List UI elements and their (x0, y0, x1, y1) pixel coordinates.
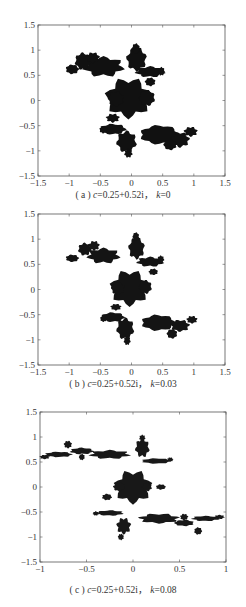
caption-c-k-value: =0.08 (155, 585, 177, 595)
caption-c: ( c ) c=0.25+0.52i， k=0.08 (0, 582, 246, 596)
y-tick-label: 1.5 (26, 407, 38, 417)
y-tick-label: 0.5 (26, 457, 38, 467)
plot-c: −1−0.500.51−1.5−1−0.500.511.5 (0, 0, 246, 607)
panel-c: −1−0.500.51−1.5−1−0.500.511.5 ( c ) c=0.… (0, 0, 246, 607)
caption-c-prefix: ( c ) (69, 585, 87, 595)
caption-c-c-value: =0.25+0.52i， (91, 585, 150, 595)
y-tick-label: −0.5 (21, 507, 38, 517)
y-tick-label: 0 (33, 482, 38, 492)
y-tick-label: 1 (33, 432, 38, 442)
x-tick-label: −0.5 (78, 564, 95, 574)
x-tick-label: 0 (131, 564, 136, 574)
y-tick-label: −1.5 (21, 557, 38, 567)
x-tick-label: 0.5 (174, 564, 186, 574)
y-tick-label: −1 (27, 532, 37, 542)
x-tick-label: 1 (224, 564, 229, 574)
